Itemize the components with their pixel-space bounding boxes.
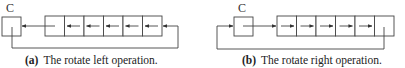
carry-label-left: C bbox=[6, 1, 14, 15]
rotate-left-diagram: C (a)The rotate left operation. bbox=[2, 1, 178, 67]
carry-flag-box-right bbox=[234, 17, 253, 36]
carry-label-right: C bbox=[238, 1, 246, 15]
register-right bbox=[277, 16, 394, 36]
rotate-operations-diagram: C (a)The rotate left operation. C bbox=[0, 0, 405, 68]
rotate-right-diagram: C (b)The rotate right operation. bbox=[217, 1, 394, 67]
caption-right: (b)The rotate right operation. bbox=[242, 54, 382, 67]
caption-left: (a)The rotate left operation. bbox=[25, 54, 158, 67]
carry-flag-box-left bbox=[2, 17, 21, 36]
register-left bbox=[45, 16, 162, 36]
